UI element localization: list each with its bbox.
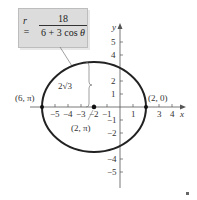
x-tick-label: −3 [76, 109, 86, 119]
y-tick-label: −1 [107, 115, 117, 125]
y-tick-label: 5 [111, 37, 116, 47]
x-tick-label: −2 [89, 109, 99, 119]
right-vertex-label: (2, 0) [148, 93, 168, 103]
center-label: (2, π) [71, 123, 91, 133]
y-axis-label: y [111, 22, 116, 32]
callout-line [60, 47, 72, 66]
x-ticks [55, 104, 172, 107]
y-tick-label: 2 [111, 76, 116, 86]
end-marker-icon [186, 192, 189, 195]
x-tick-label: 3 [157, 109, 162, 119]
x-tick-label: 1 [131, 109, 136, 119]
y-tick-label: 4 [111, 50, 116, 60]
x-tick-label: −5 [50, 109, 60, 119]
polar-graph: −5 −4 −3 −2 −1 1 3 4 x 5 4 2 1 −1 −2 −4 … [0, 0, 197, 200]
y-tick-label: 1 [111, 89, 116, 99]
y-tick-label: −4 [107, 154, 117, 164]
x-axis-label: x [179, 109, 184, 119]
x-tick-label: −4 [63, 109, 73, 119]
minor-axis-label: 2√3 [58, 81, 72, 91]
y-tick-label: −2 [107, 128, 117, 138]
y-tick-label: −5 [107, 167, 117, 177]
left-vertex-point [40, 105, 44, 109]
brace-icon [86, 62, 92, 107]
right-vertex-point [144, 105, 148, 109]
left-vertex-label: (6, π) [15, 93, 35, 103]
x-tick-label: 4 [170, 109, 175, 119]
y-axis-arrow-icon [118, 23, 123, 29]
center-point [92, 105, 97, 110]
